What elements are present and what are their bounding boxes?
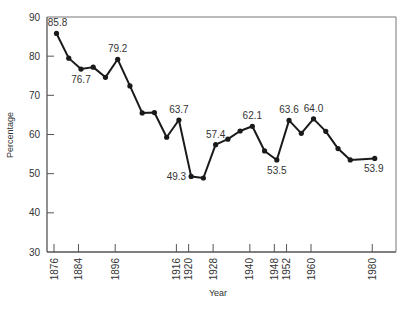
data-point [213,142,218,147]
data-point [225,137,230,142]
x-tick-label: 1916 [171,258,182,281]
series-line [57,33,375,178]
data-point [372,156,377,161]
y-tick-label: 90 [29,12,41,23]
x-tick-label: 1896 [110,258,121,281]
x-axis: 1876188418961916192019281940194819521960… [49,244,378,280]
data-label: 63.6 [279,104,299,115]
data-point [201,175,206,180]
y-tick-label: 80 [29,51,41,62]
y-tick-label: 40 [29,207,41,218]
data-label: 63.7 [169,104,189,115]
y-tick-label: 50 [29,168,41,179]
y-tick-label: 70 [29,90,41,101]
data-point [286,118,291,123]
data-label: 62.1 [243,110,263,121]
data-point [335,146,340,151]
line-chart: 30405060708090 1876188418961916192019281… [0,0,409,309]
data-point [66,56,71,61]
y-axis: 30405060708090 [29,12,54,258]
data-point [54,31,59,36]
data-label: 85.8 [48,17,68,28]
data-point [164,135,169,140]
x-axis-title: Year [209,288,227,298]
data-label: 57.4 [206,129,226,140]
data-point [140,110,145,115]
data-point [323,129,328,134]
data-label: 53.5 [267,165,287,176]
data-point [78,66,83,71]
data-label: 79.2 [108,43,128,54]
data-point [115,57,120,62]
data-point [299,131,304,136]
x-tick-label: 1920 [183,258,194,281]
data-point [274,157,279,162]
data-label: 64.0 [304,103,324,114]
data-point [348,157,353,162]
x-tick-label: 1960 [306,258,317,281]
x-tick-label: 1884 [73,258,84,281]
data-point [238,128,243,133]
data-point [311,116,316,121]
x-tick-label: 1952 [281,258,292,281]
data-label: 53.9 [364,163,384,174]
data-point [103,75,108,80]
data-point [152,110,157,115]
data-point [91,65,96,70]
data-point [250,124,255,129]
x-tick-label: 1948 [269,258,280,281]
data-point [127,83,132,88]
data-point [262,148,267,153]
y-tick-label: 60 [29,129,41,140]
data-series [54,31,377,181]
x-tick-label: 1980 [367,258,378,281]
data-label: 49.3 [167,171,187,182]
data-point [176,117,181,122]
x-tick-label: 1940 [244,258,255,281]
data-point [189,174,194,179]
x-tick-label: 1876 [49,258,60,281]
y-axis-title: Percentage [5,112,15,158]
x-tick-label: 1928 [208,258,219,281]
data-labels: 85.876.779.263.749.357.462.153.563.664.0… [48,17,384,181]
y-tick-label: 30 [29,247,41,258]
data-label: 76.7 [71,74,91,85]
